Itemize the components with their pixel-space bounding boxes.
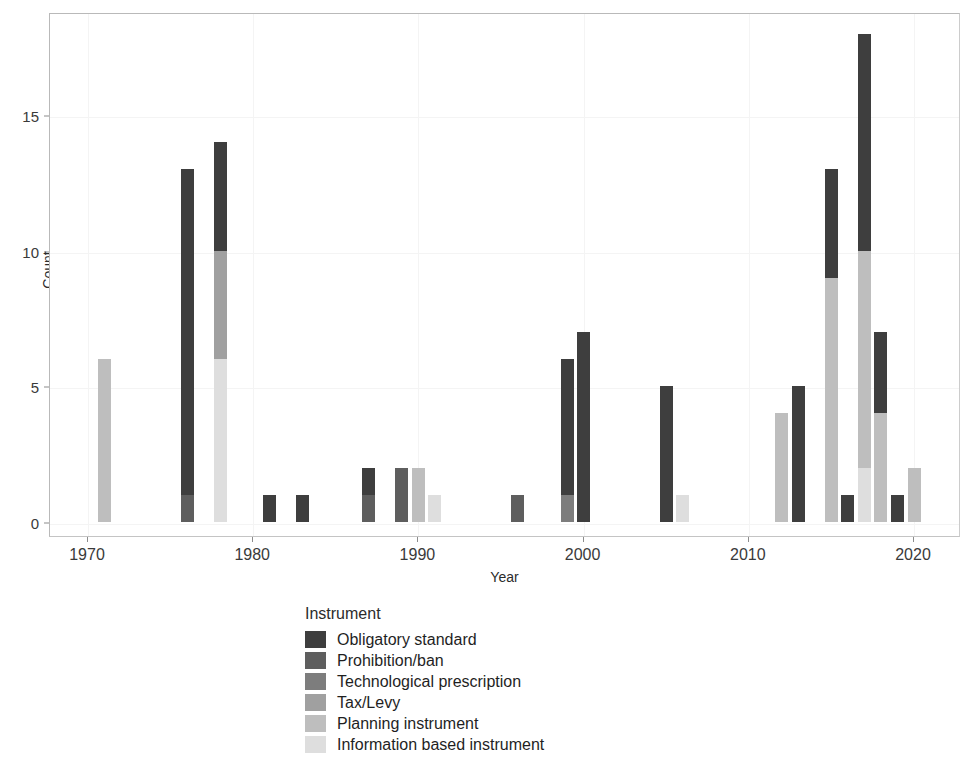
- x-tick-label: 2010: [730, 546, 766, 564]
- x-tick-label: 1970: [69, 546, 105, 564]
- bar-stack: [214, 142, 227, 522]
- bar-stack: [841, 495, 854, 522]
- legend-swatch-icon: [305, 715, 326, 732]
- legend-item[interactable]: Obligatory standard: [305, 629, 725, 650]
- bar-stack: [825, 169, 838, 522]
- bar-segment: [841, 495, 854, 522]
- bar-segment: [858, 34, 871, 251]
- plot-area: [50, 14, 959, 536]
- legend-item-label: Prohibition/ban: [337, 651, 444, 670]
- legend-swatch-icon: [305, 736, 326, 753]
- gridline-vertical: [418, 14, 419, 536]
- gridline-vertical: [749, 14, 750, 536]
- gridline-horizontal: [50, 524, 959, 525]
- bar-segment: [428, 495, 441, 522]
- x-tick-label: 2000: [565, 546, 601, 564]
- chart-figure: 051015 Count 197019801990200020102020 Ye…: [0, 0, 967, 769]
- gridline-vertical: [253, 14, 254, 536]
- x-tick-mark: [748, 537, 749, 542]
- bar-segment: [214, 251, 227, 360]
- x-tick-mark: [583, 537, 584, 542]
- legend-item-label: Planning instrument: [337, 714, 478, 733]
- x-tick-mark: [417, 537, 418, 542]
- gridline-vertical: [88, 14, 89, 536]
- x-tick-label: 1990: [400, 546, 436, 564]
- bar-stack: [676, 495, 689, 522]
- legend-item-label: Information based instrument: [337, 735, 544, 754]
- bar-segment: [676, 495, 689, 522]
- bar-stack: [908, 468, 921, 522]
- bar-stack: [891, 495, 904, 522]
- y-tick-label: 5: [31, 379, 39, 396]
- legend-item[interactable]: Planning instrument: [305, 713, 725, 734]
- bar-segment: [214, 142, 227, 251]
- bar-segment: [825, 278, 838, 522]
- bar-stack: [428, 495, 441, 522]
- bar-segment: [395, 468, 408, 522]
- bar-stack: [858, 34, 871, 522]
- bar-stack: [874, 332, 887, 522]
- bar-segment: [561, 495, 574, 522]
- bar-stack: [775, 413, 788, 522]
- x-tick-label: 2020: [895, 546, 931, 564]
- chart-legend: Instrument Obligatory standardProhibitio…: [305, 605, 725, 755]
- bar-segment: [858, 468, 871, 522]
- legend-swatch-icon: [305, 631, 326, 648]
- x-tick-label: 1980: [234, 546, 270, 564]
- legend-item[interactable]: Tax/Levy: [305, 692, 725, 713]
- y-tick-label: 0: [31, 515, 39, 532]
- legend-swatch-icon: [305, 652, 326, 669]
- y-tick-label: 10: [22, 243, 39, 260]
- bar-segment: [792, 386, 805, 522]
- bar-segment: [98, 359, 111, 522]
- bar-segment: [660, 386, 673, 522]
- bar-stack: [181, 169, 194, 522]
- bar-segment: [362, 495, 375, 522]
- gridline-horizontal: [50, 117, 959, 118]
- y-tick-label: 15: [22, 108, 39, 125]
- bar-stack: [660, 386, 673, 522]
- bar-segment: [891, 495, 904, 522]
- bar-segment: [511, 495, 524, 522]
- bar-stack: [395, 468, 408, 522]
- plot-panel: [49, 13, 960, 537]
- legend-items: Obligatory standardProhibition/banTechno…: [305, 629, 725, 755]
- legend-title: Instrument: [305, 605, 725, 622]
- bar-segment: [825, 169, 838, 278]
- bar-segment: [181, 169, 194, 495]
- bar-segment: [775, 413, 788, 522]
- legend-item-label: Technological prescription: [337, 672, 521, 691]
- bar-stack: [577, 332, 590, 522]
- x-axis-title: Year: [49, 569, 960, 585]
- bar-stack: [412, 468, 425, 522]
- bar-segment: [874, 332, 887, 413]
- bar-stack: [98, 359, 111, 522]
- bar-segment: [296, 495, 309, 522]
- x-tick-mark: [252, 537, 253, 542]
- bar-segment: [858, 251, 871, 468]
- bar-stack: [561, 359, 574, 522]
- legend-item[interactable]: Information based instrument: [305, 734, 725, 755]
- x-tick-mark: [913, 537, 914, 542]
- bar-segment: [874, 413, 887, 522]
- bar-stack: [296, 495, 309, 522]
- bar-segment: [214, 359, 227, 522]
- legend-item[interactable]: Technological prescription: [305, 671, 725, 692]
- bar-stack: [263, 495, 276, 522]
- bar-stack: [362, 468, 375, 522]
- legend-swatch-icon: [305, 673, 326, 690]
- legend-item-label: Obligatory standard: [337, 630, 477, 649]
- bar-segment: [561, 359, 574, 495]
- x-tick-mark: [87, 537, 88, 542]
- bar-segment: [362, 468, 375, 495]
- gridline-vertical: [914, 14, 915, 536]
- bar-stack: [792, 386, 805, 522]
- bar-stack: [511, 495, 524, 522]
- bar-segment: [577, 332, 590, 522]
- bar-segment: [263, 495, 276, 522]
- legend-item[interactable]: Prohibition/ban: [305, 650, 725, 671]
- bar-segment: [412, 468, 425, 522]
- bar-segment: [908, 468, 921, 522]
- legend-item-label: Tax/Levy: [337, 693, 400, 712]
- legend-swatch-icon: [305, 694, 326, 711]
